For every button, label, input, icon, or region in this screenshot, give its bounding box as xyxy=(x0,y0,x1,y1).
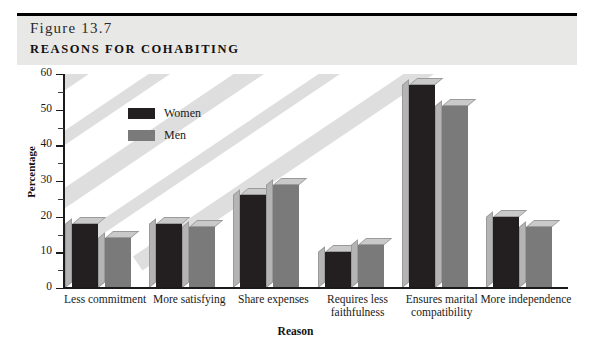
bar-front-face xyxy=(442,106,468,288)
bar-side-face xyxy=(233,189,240,288)
y-axis-tick xyxy=(56,110,64,111)
bar-women-3 xyxy=(325,252,351,288)
x-axis-line xyxy=(63,287,568,289)
bar-side-face xyxy=(266,179,273,288)
legend-swatch-women xyxy=(128,108,155,119)
bar-front-face xyxy=(526,227,552,288)
bar-front-face xyxy=(105,238,131,288)
bar-top-face xyxy=(105,231,139,238)
bar-side-face xyxy=(65,218,72,288)
bar-front-face xyxy=(325,252,351,288)
y-axis-tick xyxy=(56,145,64,146)
legend-item-men: Men xyxy=(128,128,201,143)
bar-side-face xyxy=(98,232,105,288)
legend-label: Women xyxy=(164,106,201,121)
legend-swatch-men xyxy=(128,130,155,141)
chart-plot-area: 0102030405060 Less commitmentMore satisf… xyxy=(0,0,591,354)
bar-side-face xyxy=(318,246,325,288)
bar-men-1 xyxy=(189,227,215,288)
bar-top-face xyxy=(442,99,476,106)
y-axis-title: Percentage xyxy=(25,127,37,217)
bar-men-4 xyxy=(442,106,468,288)
bar-top-face xyxy=(189,220,223,227)
bar-side-face xyxy=(486,211,493,288)
bar-men-5 xyxy=(526,227,552,288)
bar-side-face xyxy=(519,222,526,288)
bar-women-1 xyxy=(156,224,182,288)
bar-front-face xyxy=(72,224,98,288)
y-axis-tick xyxy=(56,252,64,253)
bar-side-face xyxy=(182,222,189,288)
bar-front-face xyxy=(409,85,435,288)
bar-women-5 xyxy=(493,217,519,288)
y-axis-tick-label: 60 xyxy=(18,66,52,78)
y-axis-tick-label: 10 xyxy=(18,244,52,256)
bar-men-0 xyxy=(105,238,131,288)
legend-item-women: Women xyxy=(128,106,201,121)
bar-side-face xyxy=(149,218,156,288)
bar-side-face xyxy=(435,100,442,288)
y-axis-tick xyxy=(56,181,64,182)
bar-men-2 xyxy=(273,185,299,288)
y-axis-minor-tick xyxy=(58,128,64,129)
bar-men-3 xyxy=(358,245,384,288)
y-axis-minor-tick xyxy=(58,199,64,200)
bar-front-face xyxy=(240,195,266,288)
legend-label: Men xyxy=(164,128,186,143)
bar-women-4 xyxy=(409,85,435,288)
y-axis-minor-tick xyxy=(58,235,64,236)
y-axis-tick-label: 0 xyxy=(18,280,52,292)
bar-women-0 xyxy=(72,224,98,288)
y-axis-tick xyxy=(56,74,64,75)
x-axis-category-label: More independence xyxy=(476,293,576,306)
y-axis-minor-tick xyxy=(58,92,64,93)
bar-front-face xyxy=(493,217,519,288)
y-axis-minor-tick xyxy=(58,270,64,271)
bar-front-face xyxy=(358,245,384,288)
bar-front-face xyxy=(189,227,215,288)
bar-top-face xyxy=(526,220,560,227)
y-axis-tick xyxy=(56,217,64,218)
bar-top-face xyxy=(493,210,527,217)
bar-side-face xyxy=(402,79,409,288)
bar-top-face xyxy=(358,238,392,245)
bar-front-face xyxy=(156,224,182,288)
x-axis-title: Reason xyxy=(0,325,591,337)
bar-top-face xyxy=(273,178,307,185)
chart-legend: WomenMen xyxy=(128,106,201,150)
bar-front-face xyxy=(273,185,299,288)
y-axis-tick xyxy=(56,288,64,289)
bar-side-face xyxy=(351,239,358,288)
y-axis-tick-label: 50 xyxy=(18,102,52,114)
y-axis-minor-tick xyxy=(58,163,64,164)
bar-women-2 xyxy=(240,195,266,288)
